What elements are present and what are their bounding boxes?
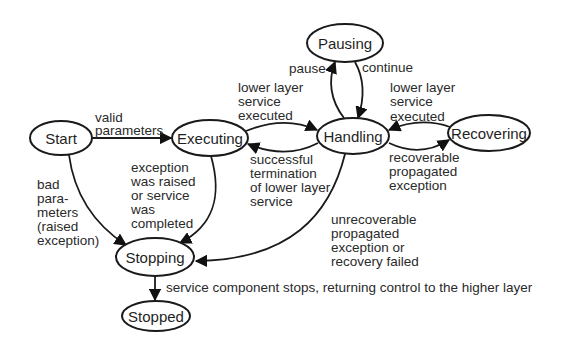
svg-text:or service: or service [131, 188, 190, 203]
node-start: Start [30, 121, 92, 155]
edge-label-recoverable-exception: recoverable propagated exception [389, 150, 460, 193]
node-label-start: Start [45, 130, 78, 147]
edge-label-successful-termination: successful termination of lower layer se… [250, 152, 331, 209]
svg-text:completed: completed [131, 216, 193, 231]
edge-label-pause: pause [289, 61, 326, 76]
node-label-executing: Executing [177, 130, 243, 147]
edge-handling-executing [248, 143, 318, 152]
edge-label-continue: continue [362, 60, 413, 75]
svg-text:service: service [390, 94, 433, 109]
svg-text:unrecoverable: unrecoverable [331, 212, 417, 227]
svg-text:meters: meters [37, 205, 79, 220]
node-label-stopped: Stopped [128, 308, 184, 325]
svg-text:(raised: (raised [37, 219, 78, 234]
svg-text:of lower layer: of lower layer [250, 180, 331, 195]
svg-text:lower layer: lower layer [390, 80, 456, 95]
svg-text:exception: exception [131, 160, 189, 175]
svg-text:exception or: exception or [331, 240, 405, 255]
svg-text:pause: pause [289, 61, 326, 76]
node-handling: Handling [317, 118, 389, 154]
svg-text:exception: exception [389, 178, 447, 193]
svg-text:recoverable: recoverable [389, 150, 460, 165]
svg-text:executed: executed [390, 109, 445, 124]
svg-text:exception): exception) [37, 233, 99, 248]
node-executing: Executing [172, 120, 248, 156]
edge-label-unrecoverable-exception: unrecoverable propagated exception or re… [331, 212, 419, 269]
svg-text:recovery failed: recovery failed [331, 254, 419, 269]
svg-text:service component stops, retur: service component stops, returning contr… [166, 280, 533, 295]
state-diagram: Start Executing Pausing Handling Recover… [0, 0, 565, 349]
svg-text:lower layer: lower layer [238, 80, 304, 95]
svg-text:continue: continue [362, 60, 413, 75]
edge-label-bad-parameters: bad para- meters (raised exception) [37, 177, 99, 248]
edge-label-lower-layer-executed-right: lower layer service executed [390, 80, 456, 124]
edge-executing-handling [246, 123, 317, 131]
node-pausing: Pausing [307, 24, 383, 62]
svg-text:para-: para- [37, 191, 69, 206]
svg-text:termination: termination [250, 166, 317, 181]
node-label-pausing: Pausing [318, 35, 372, 52]
node-label-recovering: Recovering [451, 125, 527, 142]
edge-handling-recovering [389, 140, 449, 150]
svg-text:executed: executed [238, 108, 293, 123]
svg-text:was raised: was raised [130, 174, 196, 189]
edge-handling-pausing [331, 62, 344, 118]
svg-text:service: service [238, 94, 281, 109]
edge-label-valid-parameters: valid parameters [95, 110, 164, 138]
edge-label-service-stops: service component stops, returning contr… [166, 280, 533, 295]
svg-text:propagated: propagated [331, 226, 399, 241]
svg-text:service: service [250, 194, 293, 209]
node-stopping: Stopping [116, 238, 194, 276]
svg-text:propagated: propagated [389, 164, 457, 179]
node-label-handling: Handling [323, 128, 382, 145]
svg-text:bad: bad [37, 177, 60, 192]
svg-text:successful: successful [250, 152, 313, 167]
node-stopped: Stopped [122, 301, 190, 331]
edge-label-lower-layer-executed-left: lower layer service executed [238, 80, 304, 123]
edge-label-exception-raised: exception was raised or service was comp… [130, 160, 196, 231]
node-label-stopping: Stopping [125, 249, 184, 266]
node-recovering: Recovering [448, 115, 530, 151]
svg-text:parameters: parameters [95, 123, 164, 138]
svg-text:was: was [130, 202, 155, 217]
